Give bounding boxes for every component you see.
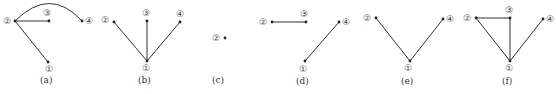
- node-4-dot: [81, 20, 84, 23]
- node-2-label: ②: [101, 15, 109, 25]
- node-2-dot: [14, 20, 17, 23]
- node-2-label: ②: [463, 13, 471, 23]
- edge-1-4: [510, 19, 543, 61]
- panel-caption: (a): [40, 75, 52, 85]
- node-3-dot: [48, 20, 51, 23]
- node-4-label: ④: [85, 16, 93, 26]
- node-3-label: ③: [43, 8, 51, 18]
- edge-1-4: [147, 22, 180, 61]
- node-4-label: ④: [176, 9, 184, 19]
- node-2-dot: [475, 17, 478, 20]
- node-4-label: ④: [546, 14, 554, 24]
- panel-e: ② ④ ① (e): [363, 13, 454, 86]
- panel-caption: (f): [502, 76, 512, 86]
- panel-f: ② ③ ④ ① (f): [463, 5, 554, 86]
- node-1-label: ①: [299, 64, 307, 74]
- node-2-label: ②: [3, 16, 11, 26]
- node-4-dot: [179, 21, 182, 24]
- node-4-label: ④: [446, 14, 454, 24]
- panel-a: ② ③ ④ ① (a): [3, 4, 93, 86]
- edge-1-2: [476, 18, 510, 61]
- node-4-dot: [542, 18, 545, 21]
- node-3-dot: [509, 17, 512, 20]
- node-3-dot: [305, 21, 308, 24]
- node-2-label: ②: [212, 33, 220, 43]
- node-2-dot: [271, 21, 274, 24]
- edge-1-4: [305, 22, 339, 61]
- node-2-dot: [113, 21, 116, 24]
- node-1-label: ①: [505, 63, 513, 73]
- node-2-label: ②: [259, 17, 267, 27]
- panel-caption: (d): [296, 76, 309, 86]
- node-1-dot: [47, 61, 50, 64]
- node-4-dot: [338, 21, 341, 24]
- panel-caption: (b): [138, 75, 151, 85]
- edge-1-2: [376, 18, 410, 61]
- node-3-label: ③: [505, 5, 513, 15]
- graph-figure: ② ③ ④ ① (a) ② ③ ④ ① (b) ② (c) ② ③ ④ ①: [0, 0, 556, 94]
- panel-caption: (c): [212, 75, 224, 85]
- node-2-dot: [375, 17, 378, 20]
- panel-d: ② ③ ④ ① (d): [259, 9, 350, 86]
- edge-2-1: [15, 21, 48, 62]
- node-3-label: ③: [300, 9, 308, 19]
- node-1-dot: [304, 60, 307, 63]
- node-4-dot: [442, 18, 445, 21]
- node-3-dot: [146, 20, 149, 23]
- panel-caption: (e): [401, 76, 413, 86]
- node-2-label: ②: [363, 13, 371, 23]
- node-1-dot: [409, 60, 412, 63]
- edge-1-2: [114, 22, 147, 61]
- node-3-label: ③: [142, 8, 150, 18]
- node-1-dot: [146, 60, 149, 63]
- edge-1-4: [410, 19, 443, 61]
- panel-b: ② ③ ④ ① (b): [101, 8, 184, 85]
- node-1-label: ①: [142, 63, 150, 73]
- node-1-dot: [509, 60, 512, 63]
- node-4-label: ④: [342, 17, 350, 27]
- panel-c: ② (c): [212, 33, 226, 85]
- node-2-dot: [224, 37, 227, 40]
- node-1-label: ①: [404, 63, 412, 73]
- node-1-label: ①: [45, 64, 53, 74]
